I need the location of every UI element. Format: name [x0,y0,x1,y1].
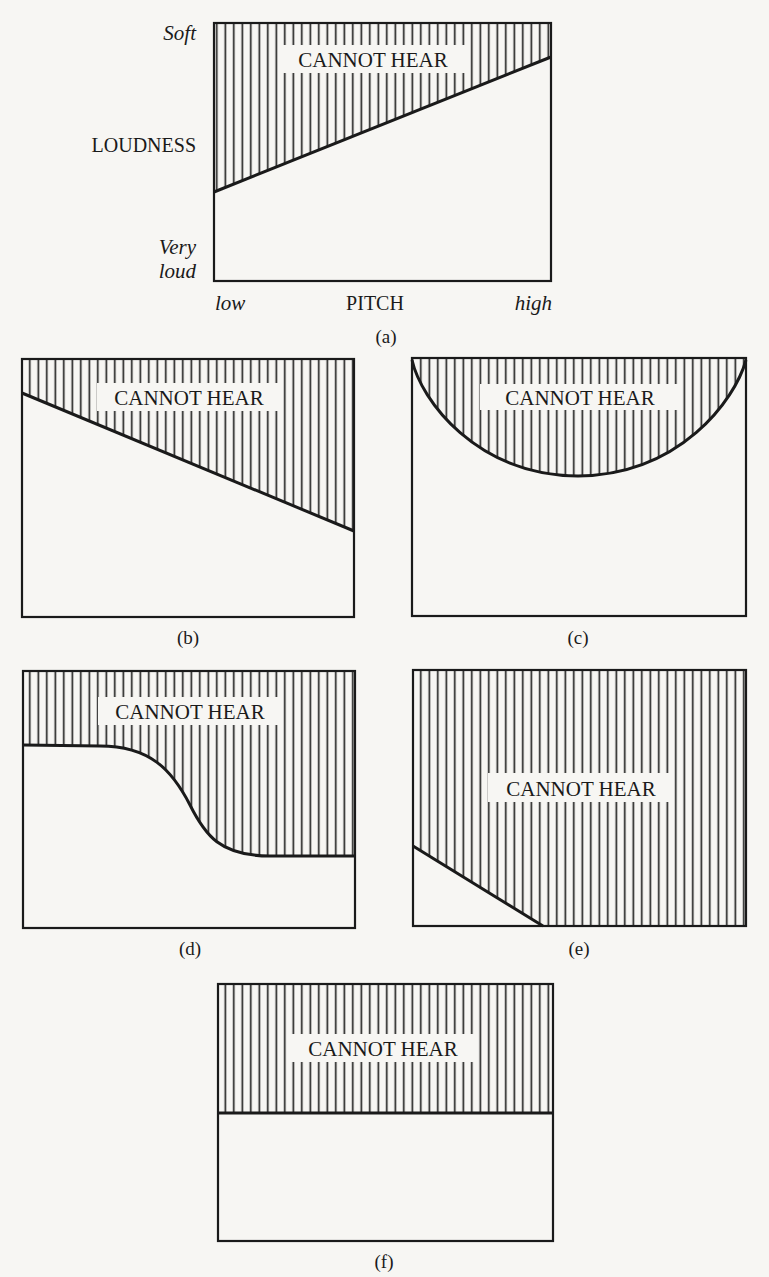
y-bottom-label-2: loud [159,259,197,283]
panel-a: CANNOT HEAR Soft LOUDNESS Very loud low … [92,21,552,348]
cannot-hear-region [412,358,746,476]
region-label: CANNOT HEAR [505,386,655,410]
x-right-label: high [515,291,552,315]
x-axis-title: PITCH [346,292,404,314]
region-label: CANNOT HEAR [308,1037,458,1061]
panel-caption: (e) [568,938,589,960]
panel-caption: (f) [375,1251,394,1273]
panel-caption: (a) [375,326,396,348]
hearing-threshold-diagram: CANNOT HEAR Soft LOUDNESS Very loud low … [0,0,769,1277]
panel-caption: (d) [179,938,201,960]
region-label: CANNOT HEAR [114,386,264,410]
panel-d: CANNOT HEAR (d) [23,671,355,960]
panel-c: CANNOT HEAR (c) [412,358,746,649]
region-label: CANNOT HEAR [115,700,265,724]
x-left-label: low [215,291,245,315]
y-bottom-label-1: Very [159,235,197,259]
region-label: CANNOT HEAR [298,48,448,72]
panel-b: CANNOT HEAR (b) [22,359,354,649]
panel-f: CANNOT HEAR (f) [218,984,553,1273]
y-top-label: Soft [163,21,197,45]
panel-caption: (c) [567,627,588,649]
region-label: CANNOT HEAR [506,777,656,801]
y-axis-title: LOUDNESS [92,134,196,156]
panel-e: CANNOT HEAR (e) [413,670,746,960]
panel-caption: (b) [177,627,199,649]
